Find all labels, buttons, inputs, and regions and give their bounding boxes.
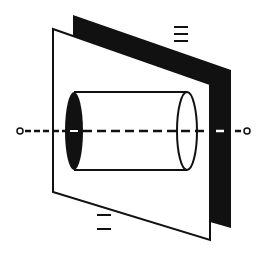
front-plane-label xyxy=(97,215,111,229)
back-plane-label xyxy=(174,27,188,41)
axis-left-endpoint xyxy=(17,128,23,134)
diagram-canvas xyxy=(0,0,266,253)
axis-right-endpoint xyxy=(244,128,250,134)
